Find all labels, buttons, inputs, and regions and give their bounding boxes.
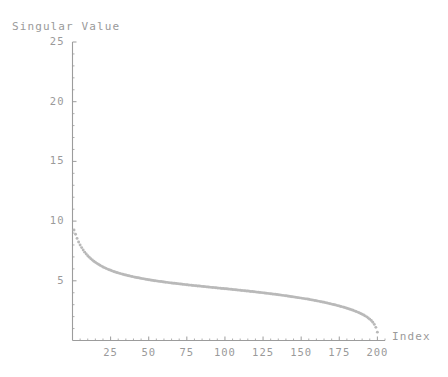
x-tick-label: 175 xyxy=(319,346,359,358)
data-point xyxy=(376,331,379,334)
data-point xyxy=(79,244,82,247)
axis-ticks xyxy=(73,42,386,341)
x-tick-label: 100 xyxy=(205,346,245,358)
data-point xyxy=(76,237,79,240)
x-tick-label: 125 xyxy=(243,346,283,358)
x-tick-label: 200 xyxy=(357,346,397,358)
y-tick-label: 15 xyxy=(25,154,65,166)
y-tick-label: 25 xyxy=(25,35,65,47)
y-tick-label: 20 xyxy=(25,95,65,107)
x-tick-label: 50 xyxy=(129,346,169,358)
x-tick-label: 75 xyxy=(167,346,207,358)
data-point xyxy=(73,229,76,232)
data-point xyxy=(80,246,83,249)
chart-container: Singular Value Index 510152025 255075100… xyxy=(0,0,448,377)
chart-plot-area xyxy=(0,0,448,377)
data-series-singular-values xyxy=(73,229,379,334)
x-tick-label: 150 xyxy=(281,346,321,358)
data-point xyxy=(374,326,377,329)
data-point xyxy=(74,233,77,236)
x-tick-label: 25 xyxy=(91,346,131,358)
axis-lines xyxy=(73,42,386,341)
data-point xyxy=(373,323,376,326)
y-tick-label: 5 xyxy=(25,274,65,286)
data-point xyxy=(77,241,80,244)
y-tick-label: 10 xyxy=(25,214,65,226)
